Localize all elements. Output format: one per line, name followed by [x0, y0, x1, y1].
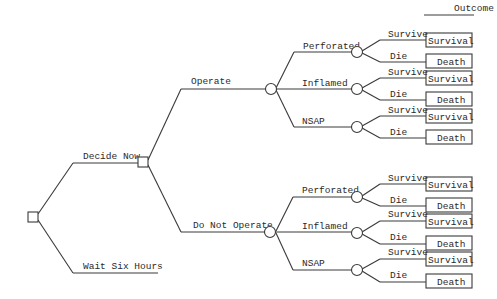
outcome-survival: Survival [428, 74, 474, 85]
dno-branch-nsap: NSAP [302, 258, 325, 269]
edge-die: Die [390, 195, 407, 206]
chance-circle-icon [352, 122, 363, 133]
edge-die: Die [390, 270, 407, 281]
outcome-death: Death [437, 95, 466, 106]
branch-decide-now: Decide Now [83, 151, 140, 162]
edge-survive: Survive [388, 67, 428, 78]
edge-survive: Survive [388, 29, 428, 40]
decide-now-square-icon [138, 157, 148, 167]
edge-die: Die [390, 51, 407, 62]
outcome-death: Death [437, 239, 466, 250]
edge-survive: Survive [388, 247, 428, 258]
dno-branch-perforated: Perforated [302, 185, 359, 196]
operate-branch-nsap: NSAP [302, 116, 325, 127]
root-decision-node [28, 163, 158, 273]
chance-circle-icon [352, 228, 363, 239]
outcome-death: Death [437, 201, 466, 212]
edge-die: Die [390, 89, 407, 100]
outcome-header: Outcome [454, 3, 494, 14]
outcome-death: Death [437, 57, 466, 68]
branch-operate: Operate [191, 76, 231, 87]
branch-do-not-operate: Do Not Operate [193, 220, 273, 231]
chance-circle-icon [352, 265, 363, 276]
outcome-survival: Survival [428, 36, 474, 47]
chance-circle-icon [352, 47, 363, 58]
chance-circle-icon [352, 192, 363, 203]
outcome-survival: Survival [428, 180, 474, 191]
edge-survive: Survive [388, 209, 428, 220]
outcome-survival: Survival [428, 112, 474, 123]
branch-wait-six-hours: Wait Six Hours [83, 261, 163, 272]
outcome-survival: Survival [428, 255, 474, 266]
operate-chance-circle-icon [266, 84, 277, 95]
decision-tree: Outcome Decide Now Wait Six Hours Operat… [0, 0, 497, 299]
chance-circle-icon [352, 84, 363, 95]
outcome-death: Death [437, 133, 466, 144]
outcome-death: Death [437, 277, 466, 288]
dno-branch-inflamed: Inflamed [302, 221, 348, 232]
outcome-survival: Survival [428, 217, 474, 228]
decide-now-decision-node [138, 89, 265, 232]
edge-die: Die [390, 232, 407, 243]
edge-survive: Survive [388, 105, 428, 116]
root-decision-square-icon [28, 212, 38, 222]
operate-branch-inflamed: Inflamed [302, 78, 348, 89]
do-not-operate-chance-circle-icon [265, 227, 276, 238]
edge-die: Die [390, 127, 407, 138]
edge-survive: Survive [388, 173, 428, 184]
